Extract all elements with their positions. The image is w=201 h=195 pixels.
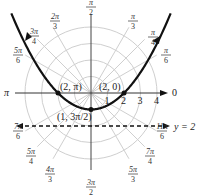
angle-label: 7π6	[13, 122, 23, 141]
angle-label: 5π4	[26, 147, 36, 166]
angle-label: 5π6	[13, 46, 23, 65]
svg-text:3π: 3π	[29, 27, 39, 36]
svg-text:4: 4	[32, 37, 36, 46]
svg-text:7π: 7π	[146, 147, 155, 156]
svg-text:6: 6	[160, 132, 164, 141]
svg-text:2π: 2π	[51, 12, 60, 21]
radial-tick-labels: 1234	[105, 95, 160, 106]
svg-text:2: 2	[89, 188, 93, 195]
svg-text:3π: 3π	[86, 178, 96, 187]
svg-text:π: π	[89, 0, 94, 7]
angle-label: 0	[172, 87, 177, 98]
angle-label: π2	[86, 0, 96, 17]
angle-label: 3π2	[86, 178, 96, 195]
svg-text:2: 2	[89, 8, 93, 17]
svg-text:3: 3	[53, 22, 57, 31]
svg-text:4: 4	[151, 38, 155, 47]
svg-text:0: 0	[172, 87, 177, 98]
svg-text:4π: 4π	[46, 165, 55, 174]
svg-text:5π: 5π	[27, 147, 36, 156]
angle-label: π6	[161, 46, 171, 65]
angle-label: 4π3	[45, 165, 55, 184]
svg-text:6: 6	[164, 56, 168, 65]
angle-label: π3	[128, 12, 138, 31]
svg-text:6: 6	[16, 56, 20, 65]
svg-text:4: 4	[29, 157, 33, 166]
svg-text:5π: 5π	[129, 165, 138, 174]
axis-arrow-icon	[160, 90, 168, 96]
svg-text:π: π	[4, 87, 10, 98]
point-label: (2, 0)	[99, 81, 121, 93]
svg-text:3: 3	[48, 175, 52, 184]
svg-text:4: 4	[148, 157, 152, 166]
curve-point	[122, 91, 127, 96]
radial-tick-label: 2	[121, 95, 126, 106]
polar-chart: y = 2 0π6π4π3π22π33π45π6π7π65π44π33π25π3…	[0, 0, 201, 195]
radial-tick-label: 4	[154, 95, 159, 106]
svg-text:11π: 11π	[156, 122, 168, 131]
angle-label: π	[4, 87, 10, 98]
svg-text:π: π	[151, 28, 156, 37]
radial-tick-label: 1	[105, 95, 110, 106]
point-label: (2, π)	[60, 81, 82, 93]
svg-text:π: π	[131, 12, 136, 21]
svg-text:6: 6	[16, 132, 20, 141]
angle-label: 2π3	[50, 12, 60, 31]
svg-text:3: 3	[131, 175, 135, 184]
directrix-label: y = 2	[173, 121, 195, 132]
svg-text:π: π	[164, 46, 169, 55]
point-label: (1, 3π/2)	[57, 111, 92, 123]
radial-tick-label: 3	[138, 95, 143, 106]
svg-text:3: 3	[131, 22, 135, 31]
svg-text:5π: 5π	[14, 46, 23, 55]
angle-label: 7π4	[145, 147, 155, 166]
angle-label: 5π3	[128, 165, 138, 184]
svg-text:7π: 7π	[14, 122, 23, 131]
angle-label: 11π6	[156, 122, 168, 141]
